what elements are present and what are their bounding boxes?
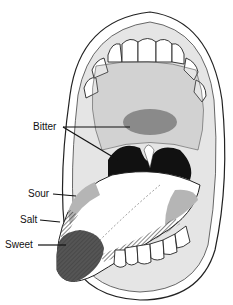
palate — [92, 61, 203, 150]
bitter-zone — [123, 109, 177, 135]
label-bitter: Bitter — [33, 121, 56, 133]
label-sweet: Sweet — [5, 239, 33, 251]
mouth-illustration — [0, 0, 233, 305]
label-salt: Salt — [20, 214, 37, 226]
label-sour: Sour — [28, 188, 49, 200]
